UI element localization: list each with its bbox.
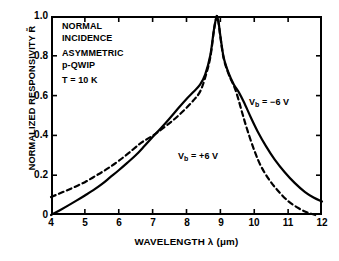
condition-line-normal: NORMAL — [62, 21, 124, 33]
y-tick-label: 1.0 — [22, 11, 48, 21]
x-tick-label: 5 — [73, 217, 97, 228]
y-tick-label: 0.8 — [22, 51, 48, 61]
curve-label-neg-value: = −6 V — [260, 97, 290, 107]
curve-label-vb-positive: Vb = +6 V — [178, 151, 218, 162]
y-tick-label: 0.2 — [22, 170, 48, 180]
y-tick-label: 0.6 — [22, 91, 48, 101]
curve-label-vb-negative: Vb = −6 V — [249, 97, 289, 108]
condition-group-device: ASYMMETRIC p-QWIP — [62, 48, 124, 71]
condition-line-pqwip: p-QWIP — [62, 60, 124, 72]
curve-label-pos-value: = +6 V — [189, 151, 219, 161]
condition-line-incidence: INCIDENCE — [62, 33, 124, 45]
condition-annotation-block: NORMAL INCIDENCE ASYMMETRIC p-QWIP T = 1… — [62, 21, 124, 87]
x-tick-label: 7 — [141, 217, 165, 228]
x-tick-label: 12 — [310, 217, 334, 228]
x-tick-label: 4 — [39, 217, 63, 228]
x-tick-label: 11 — [276, 217, 300, 228]
y-tick-label: 0.4 — [22, 130, 48, 140]
x-tick-label: 9 — [209, 217, 233, 228]
x-axis-title: WAVELENGTH λ (μm) — [51, 236, 322, 247]
condition-line-asymmetric: ASYMMETRIC — [62, 48, 124, 60]
x-tick-label: 10 — [242, 217, 266, 228]
x-tick-label: 6 — [107, 217, 131, 228]
figure-container: NORMALIZED RESPONSIVITY R̃ 1.0 0.8 0.6 0… — [0, 0, 339, 261]
x-tick-label: 8 — [175, 217, 199, 228]
condition-group-incidence: NORMAL INCIDENCE — [62, 21, 124, 44]
condition-line-temperature: T = 10 K — [62, 75, 124, 87]
x-tick-label-group: 4 5 6 7 8 9 10 11 12 — [0, 217, 339, 235]
